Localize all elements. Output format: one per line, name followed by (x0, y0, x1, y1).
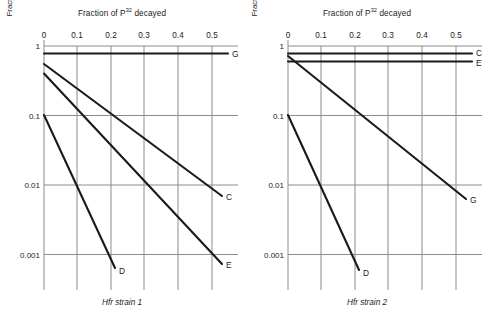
series-line-g (288, 56, 466, 199)
x-tick-label: 0.2 (349, 31, 361, 40)
figure-root: Fraction of P32 decayed Fraction of prot… (0, 0, 489, 318)
x-tick-label: 0.2 (105, 31, 117, 40)
y-tick-labels-left: 1 0.1 0.01 0.001 (20, 42, 41, 260)
y-tick-label: 0.01 (24, 181, 40, 190)
series-label-e: E (226, 260, 232, 270)
vertical-gridlines-left (44, 40, 212, 290)
x-tick-label: 0.1 (71, 31, 83, 40)
series-label-e: E (476, 58, 482, 68)
y-tick-label: 0.01 (268, 181, 284, 190)
chart-panel-hfr-strain-1: Fraction of P32 decayed Fraction of prot… (0, 0, 244, 318)
x-tick-labels-left: 0 0.1 0.2 0.3 0.4 0.5 (42, 31, 218, 40)
horizontal-gridlines-left (44, 46, 238, 255)
data-series-left (44, 54, 228, 269)
y-tick-labels-right: 1 0.1 0.01 0.001 (264, 42, 285, 260)
x-tick-label: 0.5 (206, 31, 218, 40)
chart-caption-right: Hfr strain 2 (245, 298, 489, 307)
series-label-g: G (232, 49, 239, 59)
x-tick-label: 0.1 (315, 31, 327, 40)
data-series-right (288, 54, 472, 271)
x-tick-labels-right: 0 0.1 0.2 0.3 0.4 0.5 (286, 31, 462, 40)
x-tick-label: 0.3 (138, 31, 150, 40)
horizontal-gridlines-right (288, 46, 482, 255)
x-tick-label: 0.3 (382, 31, 394, 40)
series-label-d: D (119, 266, 125, 276)
x-tick-label: 0.5 (450, 31, 462, 40)
series-labels-left: G C E D (119, 49, 239, 276)
chart-panel-hfr-strain-2: Fraction of P32 decayed Fraction of prot… (245, 0, 489, 318)
series-label-c: C (226, 192, 232, 202)
x-tick-label: 0 (286, 31, 291, 40)
y-tick-label: 1 (36, 42, 41, 51)
y-tick-label: 0.1 (273, 112, 285, 121)
series-label-d: D (363, 268, 369, 278)
series-line-d (288, 115, 359, 270)
series-label-c: C (476, 48, 482, 58)
plot-area-left: 0 0.1 0.2 0.3 0.4 0.5 1 0.1 0.01 0.001 (0, 0, 244, 318)
y-tick-label: 0.001 (264, 251, 285, 260)
chart-caption-left: Hfr strain 1 (0, 298, 244, 307)
x-tick-label: 0.4 (416, 31, 428, 40)
series-line-e (44, 74, 222, 265)
series-line-c (44, 64, 222, 196)
x-tick-label: 0.4 (172, 31, 184, 40)
plot-area-right: 0 0.1 0.2 0.3 0.4 0.5 1 0.1 0.01 0.001 (245, 0, 489, 318)
y-tick-label: 1 (280, 42, 285, 51)
series-label-g: G (470, 195, 477, 205)
y-tick-label: 0.1 (29, 112, 41, 121)
x-tick-label: 0 (42, 31, 47, 40)
y-tick-label: 0.001 (20, 251, 41, 260)
